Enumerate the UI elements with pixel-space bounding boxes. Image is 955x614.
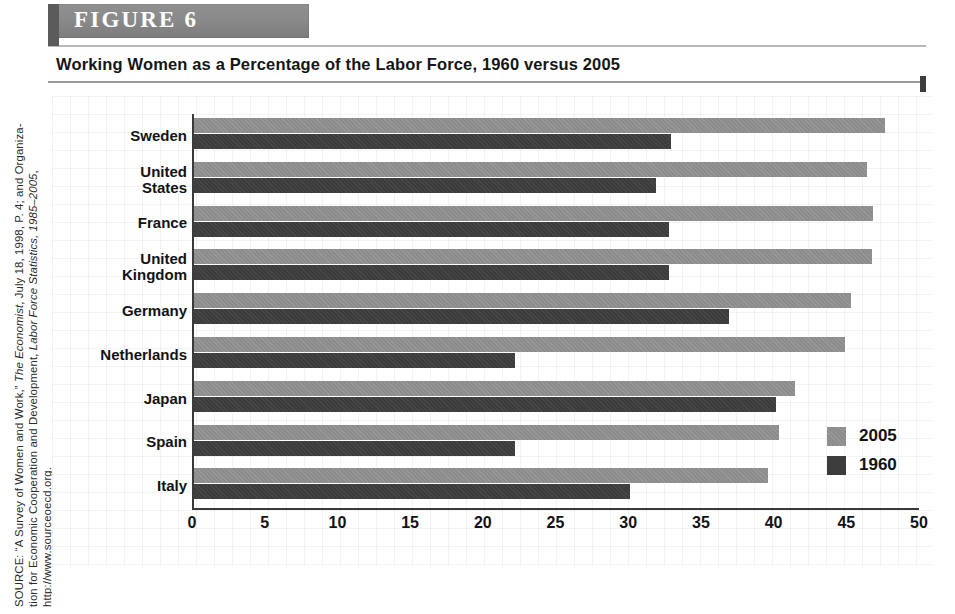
bar-1960	[194, 397, 776, 412]
legend-label: 1960	[859, 455, 897, 475]
bar-group	[194, 421, 921, 465]
category-label-row: Sweden	[52, 114, 187, 158]
bar-1960	[194, 134, 671, 149]
source-note-line-3: http://www.sourceoecd.org.	[41, 467, 52, 607]
source-line1-part-a: SOURCE: “A Survey of Women and Work,”	[13, 382, 25, 607]
legend-swatch-2005	[827, 427, 846, 446]
bar-group	[194, 158, 921, 202]
category-label-row: Netherlands	[52, 333, 187, 377]
x-axis-tick-labels: 05101520253035404550	[192, 514, 919, 544]
source-line1-part-c: , July 18, 1998, P. 4; and Organiza-	[13, 123, 25, 304]
category-label: Netherlands	[100, 347, 187, 363]
legend-item: 1960	[827, 455, 897, 475]
x-tick-label: 35	[692, 514, 710, 532]
bar-chart: SwedenUnited StatesFranceUnited KingdomG…	[52, 96, 932, 596]
bar-1960	[194, 353, 515, 368]
category-label: United States	[140, 164, 187, 196]
bar-2005	[194, 206, 873, 221]
bar-1960	[194, 441, 515, 456]
bar-2005	[194, 381, 795, 396]
bar-1960	[194, 309, 729, 324]
x-tick-label: 25	[547, 514, 565, 532]
source-note: SOURCE: “A Survey of Women and Work,” Th…	[0, 0, 52, 614]
bars-area	[192, 114, 921, 508]
figure-number-band: FIGURE 6	[48, 4, 309, 38]
category-label: United Kingdom	[122, 251, 187, 283]
bar-group	[194, 114, 921, 158]
bar-2005	[194, 249, 872, 264]
bar-2005	[194, 425, 779, 440]
source-note-line-2: tion for Economic Cooperation and Develo…	[27, 170, 39, 607]
bar-group	[194, 464, 921, 508]
category-label: Spain	[146, 434, 187, 450]
bar-2005	[194, 118, 885, 133]
x-tick-label: 0	[188, 514, 197, 532]
x-tick-label: 5	[260, 514, 269, 532]
category-label-row: United States	[52, 158, 187, 202]
figure-header: FIGURE 6 Working Women as a Percentage o…	[48, 4, 926, 83]
x-tick-label: 30	[619, 514, 637, 532]
bar-group	[194, 333, 921, 377]
x-tick-label: 15	[401, 514, 419, 532]
legend-item: 2005	[827, 426, 897, 446]
bar-1960	[194, 178, 656, 193]
bar-1960	[194, 265, 669, 280]
bar-group	[194, 289, 921, 333]
source-line1-publication: The Economist	[13, 305, 25, 382]
bar-1960	[194, 222, 669, 237]
source-note-line-1: SOURCE: “A Survey of Women and Work,” Th…	[13, 123, 25, 607]
chart-legend: 20051960	[827, 426, 897, 484]
x-tick-label: 50	[910, 514, 928, 532]
figure-title: Working Women as a Percentage of the Lab…	[48, 47, 926, 81]
source-line2-part-a: tion for Economic Cooperation and Develo…	[27, 350, 39, 607]
x-tick-label: 20	[474, 514, 492, 532]
category-label-row: United Kingdom	[52, 245, 187, 289]
x-axis-line	[192, 508, 919, 510]
legend-label: 2005	[859, 426, 897, 446]
category-label: Germany	[122, 303, 187, 319]
source-line2-publication: Labor Force Statistics, 1985–2005	[27, 174, 39, 351]
bar-2005	[194, 162, 867, 177]
category-label: France	[138, 215, 187, 231]
bar-group	[194, 377, 921, 421]
x-tick-label: 10	[328, 514, 346, 532]
x-tick-label: 45	[837, 514, 855, 532]
category-label-row: Japan	[52, 377, 187, 421]
category-label: Italy	[157, 478, 187, 494]
x-tick-label: 40	[765, 514, 783, 532]
source-line2-part-c: ,	[27, 170, 39, 173]
category-label-row: Italy	[52, 464, 187, 508]
legend-swatch-1960	[827, 456, 846, 475]
plot-area: SwedenUnited StatesFranceUnited KingdomG…	[52, 96, 932, 596]
bar-group	[194, 202, 921, 246]
category-label-row: France	[52, 202, 187, 246]
bar-2005	[194, 468, 768, 483]
figure-number-label: FIGURE 6	[74, 7, 198, 33]
category-label: Sweden	[130, 128, 187, 144]
header-rule-bottom	[48, 81, 926, 83]
bar-1960	[194, 484, 630, 499]
bar-2005	[194, 337, 845, 352]
category-axis-labels: SwedenUnited StatesFranceUnited KingdomG…	[52, 114, 187, 508]
category-label-row: Germany	[52, 289, 187, 333]
bar-group	[194, 245, 921, 289]
category-label-row: Spain	[52, 421, 187, 465]
category-label: Japan	[144, 391, 187, 407]
bar-2005	[194, 293, 851, 308]
